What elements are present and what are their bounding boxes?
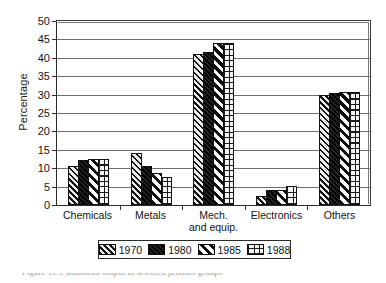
legend-swatch-1985 xyxy=(198,244,215,255)
x-axis-label-line1: Metals xyxy=(135,209,166,221)
bar-1988-metals xyxy=(161,177,172,205)
x-axis-label-line2: and equip. xyxy=(182,221,245,233)
bar-1988-mech-and-equip xyxy=(223,43,234,205)
x-axis-label-line1: Electronics xyxy=(251,209,302,221)
legend-item-1988: 1988 xyxy=(247,244,290,256)
bar-groups xyxy=(57,21,370,205)
figure-bar-chart: Percentage 05101520253035404550 Chemical… xyxy=(0,0,386,283)
legend-item-1970: 1970 xyxy=(99,244,142,256)
y-axis-tick-label: 10 xyxy=(38,162,50,174)
legend-label-1980: 1980 xyxy=(168,244,191,256)
x-axis-label-line1: Chemicals xyxy=(63,209,112,221)
x-axis-label: Mech.and equip. xyxy=(182,209,245,239)
y-axis-tick xyxy=(52,205,57,206)
plot-area: 05101520253035404550 xyxy=(56,20,371,206)
bar-set xyxy=(131,21,171,205)
chart-legend: 1970198019851988 xyxy=(98,240,291,259)
bar-group xyxy=(57,21,120,205)
y-axis-tick-label: 0 xyxy=(44,199,50,211)
y-axis-tick-label: 35 xyxy=(38,70,50,82)
y-axis-tick-label: 5 xyxy=(44,181,50,193)
x-axis-label: Electronics xyxy=(245,209,308,239)
x-axis-label-line1: Others xyxy=(324,209,356,221)
y-axis-tick-label: 45 xyxy=(38,33,50,45)
bar-set xyxy=(193,21,233,205)
bar-1988-chemicals xyxy=(98,159,109,206)
legend-label-1988: 1988 xyxy=(267,244,290,256)
legend-label-1985: 1985 xyxy=(218,244,241,256)
x-axis-labels: ChemicalsMetalsMech.and equip.Electronic… xyxy=(56,209,371,239)
x-axis-label: Others xyxy=(308,209,371,239)
bar-group xyxy=(120,21,183,205)
legend-label-1970: 1970 xyxy=(119,244,142,256)
bar-set xyxy=(256,21,296,205)
figure-caption: Figure 11.1 Industrial output in selecte… xyxy=(22,273,352,283)
bar-group xyxy=(245,21,308,205)
legend-swatch-1970 xyxy=(99,244,116,255)
bar-group xyxy=(307,21,370,205)
x-axis-label-line1: Mech. xyxy=(199,209,228,221)
bar-group xyxy=(182,21,245,205)
x-axis-label: Chemicals xyxy=(56,209,119,239)
legend-swatch-1980 xyxy=(148,244,165,255)
figure-caption-text: Figure 11.1 Industrial output in selecte… xyxy=(22,273,352,277)
y-axis-tick-label: 40 xyxy=(38,52,50,64)
y-axis-tick-label: 30 xyxy=(38,89,50,101)
bar-1988-others xyxy=(349,92,360,205)
bar-1988-electronics xyxy=(286,186,297,205)
y-axis-tick-label: 25 xyxy=(38,107,50,119)
y-axis-tick-label: 15 xyxy=(38,144,50,156)
y-axis-tick-label: 50 xyxy=(38,15,50,27)
bar-set xyxy=(68,21,108,205)
y-axis-title: Percentage xyxy=(17,42,29,162)
bar-set xyxy=(319,21,359,205)
legend-item-1980: 1980 xyxy=(148,244,191,256)
x-axis-label: Metals xyxy=(119,209,182,239)
y-axis-tick-label: 20 xyxy=(38,125,50,137)
legend-swatch-1988 xyxy=(247,244,264,255)
legend-item-1985: 1985 xyxy=(198,244,241,256)
